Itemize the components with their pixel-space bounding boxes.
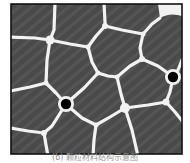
figure-caption: (b) 颗粒材料结构示意图 [0,153,190,163]
grain-boundary-segment [104,3,105,26]
particle [61,99,71,109]
triple-junction [94,123,99,128]
triple-junction [102,23,108,29]
particle [168,72,178,82]
triple-junction [96,71,101,76]
triple-junction [44,81,49,86]
grain-structure-figure [0,0,190,163]
triple-junction [86,45,91,50]
triple-junction [139,56,145,62]
triple-junction [163,99,170,106]
triple-junction [46,36,55,45]
triple-junction [141,32,146,37]
triple-junction [41,130,47,136]
triple-junction [120,103,130,113]
triple-junction [115,75,120,80]
